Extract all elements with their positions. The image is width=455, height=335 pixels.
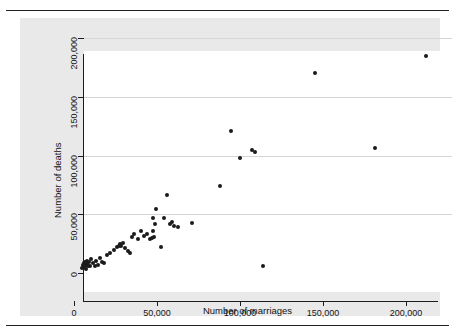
gridline-y-50000 — [84, 214, 452, 215]
scatter-point — [151, 216, 155, 220]
scatter-point — [145, 232, 149, 236]
scatter-point — [165, 193, 169, 197]
scatter-point — [128, 251, 132, 255]
scatter-point — [96, 263, 100, 267]
scatter-point — [136, 237, 140, 241]
y-axis-title: Number of deaths — [52, 142, 63, 218]
scatter-point — [153, 222, 157, 226]
scatter-point — [159, 245, 163, 249]
plot-region — [84, 51, 452, 292]
scatter-point — [162, 216, 166, 220]
scatter-point — [229, 129, 233, 133]
y-axis-line — [83, 54, 84, 302]
tick-label-y-50000: 50,000 — [69, 213, 79, 267]
scatter-point — [152, 235, 156, 239]
tick-label-y-200000: 200,000 — [69, 37, 79, 91]
graph-panel: 050,000100,000150,000200,000 050,000100,… — [20, 18, 440, 316]
scatter-point — [108, 251, 112, 255]
scatter-point — [190, 221, 194, 225]
top-rule — [6, 10, 449, 11]
gridline-y-150000 — [84, 97, 452, 98]
scatter-point — [121, 241, 125, 245]
scatter-point — [151, 229, 155, 233]
scatter-point — [130, 235, 134, 239]
scatter-point — [132, 232, 136, 236]
tick-label-y-100000: 100,000 — [69, 155, 79, 209]
gridline-y-200000 — [84, 38, 452, 39]
tick-label-y-150000: 150,000 — [69, 96, 79, 150]
scatter-point — [218, 184, 222, 188]
scatter-point — [238, 156, 242, 160]
scatter-point — [313, 71, 317, 75]
scatter-point — [373, 146, 377, 150]
figure-frame: 050,000100,000150,000200,000 050,000100,… — [0, 0, 455, 335]
gridline-y-100000 — [84, 156, 452, 157]
scatter-point — [176, 225, 180, 229]
scatter-point — [253, 150, 257, 154]
scatter-point — [172, 224, 176, 228]
scatter-point — [261, 264, 265, 268]
x-axis-line — [83, 301, 438, 302]
scatter-point — [102, 261, 106, 265]
scatter-point — [154, 207, 158, 211]
x-axis-title: Number of marriages — [0, 305, 455, 316]
scatter-point — [139, 229, 143, 233]
scatter-point — [424, 54, 428, 58]
